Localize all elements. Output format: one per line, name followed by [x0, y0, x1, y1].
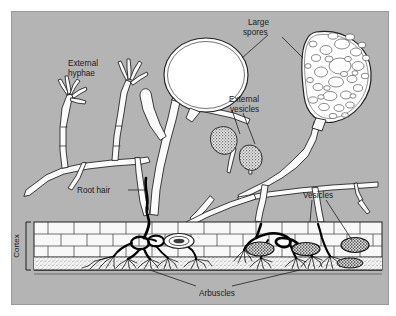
label-external-vesicles-line2: vesicles: [230, 105, 259, 114]
label-root-hair: Root hair: [77, 186, 110, 195]
internal-vesicle-filled-1: [246, 242, 274, 256]
cortex-label: Cortex: [12, 234, 21, 258]
diagram-canvas: Cortex External hyphae Large spores Exte…: [0, 0, 396, 316]
label-large-spores-line2: spores: [243, 28, 268, 37]
internal-vesicle-filled-3: [341, 238, 369, 253]
cortex-arbuscule-zone: [34, 257, 382, 270]
internal-vesicle-filled-2: [292, 243, 320, 256]
external-vesicle-lower: [239, 145, 262, 170]
external-vesicle-upper: [210, 127, 237, 155]
label-external-hyphae-line1: External: [68, 59, 98, 68]
label-external-hyphae-line2: hyphae: [68, 69, 95, 78]
label-external-vesicles-line1: External: [229, 95, 259, 104]
label-vesicles: Vesicles: [303, 191, 333, 200]
internal-vesicle-filled-4: [337, 258, 363, 268]
label-arbuscles: Arbuscles: [199, 289, 235, 298]
mycorrhiza-figure: Cortex External hyphae Large spores Exte…: [0, 0, 396, 316]
internal-vesicle-outlined-1: [164, 234, 194, 249]
hypha-tip2-finger-b: [127, 59, 131, 79]
label-large-spores-line1: Large: [248, 18, 269, 27]
root-cortex: [34, 222, 382, 274]
